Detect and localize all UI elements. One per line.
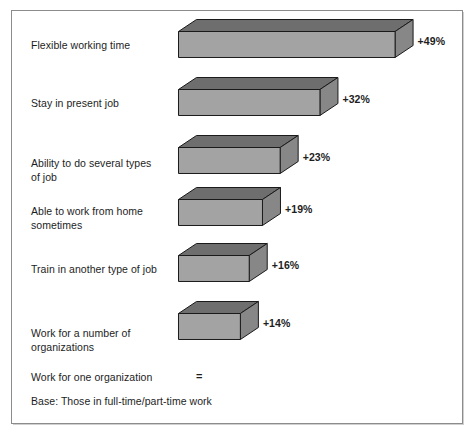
category-label-line: Stay in present job [31, 97, 181, 111]
bar-3d [178, 135, 300, 175]
bar-value-label: +14% [263, 317, 291, 329]
bar-3d [178, 187, 282, 227]
category-label-line: of job [31, 171, 181, 185]
category-label: Work for one organization [31, 371, 181, 385]
bar-front-face [178, 90, 319, 116]
category-label-line: Train in another type of job [31, 263, 181, 277]
category-label: Work for a number oforganizations [31, 327, 181, 354]
bar-front-face [178, 314, 240, 340]
bar-front-face [179, 256, 250, 282]
bar-3d [178, 77, 339, 117]
bar-value-label: +49% [418, 35, 446, 47]
category-label-line: sometimes [31, 219, 181, 233]
bar-3d [178, 301, 260, 341]
category-label-line: Work for one organization [31, 371, 181, 385]
category-label: Able to work from homesometimes [31, 205, 181, 232]
category-label-line: Flexible working time [31, 39, 181, 53]
category-label: Stay in present job [31, 97, 181, 111]
bar-value-label: +16% [272, 259, 300, 271]
category-label-line: organizations [31, 341, 181, 355]
category-label-line: Ability to do several types [31, 157, 181, 171]
bar-chart-plot-area: Flexible working time+49%Stay in present… [12, 11, 462, 423]
category-label-line: Able to work from home [31, 205, 181, 219]
bar-top-face [178, 78, 337, 90]
category-label: Ability to do several typesof job [31, 157, 181, 184]
chart-frame: Flexible working time+49%Stay in present… [11, 10, 463, 424]
bar-value-label: +23% [303, 151, 331, 163]
bar-front-face [178, 200, 262, 226]
bar-front-face [179, 32, 396, 58]
bar-top-face [179, 20, 414, 32]
category-label: Train in another type of job [31, 263, 181, 277]
base-note: Base: Those in full-time/part-time work [31, 395, 212, 408]
bar-3d [178, 19, 415, 59]
bar-top-face [178, 136, 298, 148]
bar-3d [178, 243, 269, 283]
zero-value-marker: = [196, 370, 202, 382]
category-label: Flexible working time [31, 39, 181, 53]
bar-front-face [178, 148, 280, 174]
category-label-line: Work for a number of [31, 327, 181, 341]
bar-value-label: +19% [285, 203, 313, 215]
bar-value-label: +32% [342, 93, 370, 105]
